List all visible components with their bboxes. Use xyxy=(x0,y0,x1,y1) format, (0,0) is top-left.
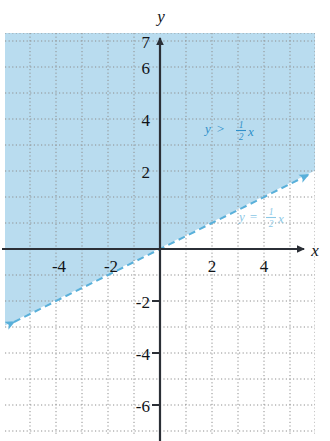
line-lhs: y xyxy=(237,209,245,224)
y-tick-label--4: -4 xyxy=(136,345,151,364)
x-axis-label: x xyxy=(310,241,319,260)
y-tick-label--2: -2 xyxy=(136,293,150,312)
inequality-variable: x xyxy=(247,124,254,139)
inequality-relation: > xyxy=(216,121,225,136)
boundary-line-annotation: y = 1 2 x xyxy=(237,207,284,229)
y-tick-label-4: 4 xyxy=(142,111,151,130)
y-axis-label: y xyxy=(155,7,165,26)
y-tick-label-7: 7 xyxy=(142,33,151,52)
line-variable: x xyxy=(277,211,284,226)
line-relation: = xyxy=(249,209,258,224)
line-fraction-numerator: 1 xyxy=(269,207,274,217)
inequality-fraction-denominator: 2 xyxy=(239,132,244,142)
x-tick-label--4: -4 xyxy=(52,257,67,276)
line-fraction-denominator: 2 xyxy=(269,219,274,229)
y-tick-label--6: -6 xyxy=(136,397,150,416)
y-tick-label-6: 6 xyxy=(142,59,151,78)
x-tick-label-4: 4 xyxy=(260,257,269,276)
y-tick-label-2: 2 xyxy=(142,163,151,182)
inequality-lhs: y xyxy=(203,121,211,136)
inequality-graph-figure: x y -4 -2 2 4 7 6 4 2 -2 -4 -6 y > 1 2 x… xyxy=(0,0,330,441)
inequality-fraction-numerator: 1 xyxy=(239,120,244,130)
coordinate-plane: x y -4 -2 2 4 7 6 4 2 -2 -4 -6 y > 1 2 x… xyxy=(0,0,330,441)
x-tick-label-2: 2 xyxy=(208,257,217,276)
x-tick-label--2: -2 xyxy=(104,257,118,276)
